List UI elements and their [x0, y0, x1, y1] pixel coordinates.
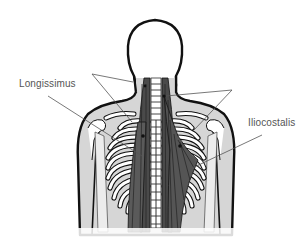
attachment-point	[162, 94, 165, 97]
label-iliocostalis: Iliocostalis	[248, 117, 295, 128]
spine	[151, 78, 161, 228]
attachment-point	[144, 85, 147, 88]
anatomy-diagram: Longissimus Iliocostalis	[0, 0, 308, 241]
attachment-point	[141, 134, 145, 138]
attachment-point	[178, 144, 182, 148]
label-longissimus: Longissimus	[19, 78, 76, 89]
